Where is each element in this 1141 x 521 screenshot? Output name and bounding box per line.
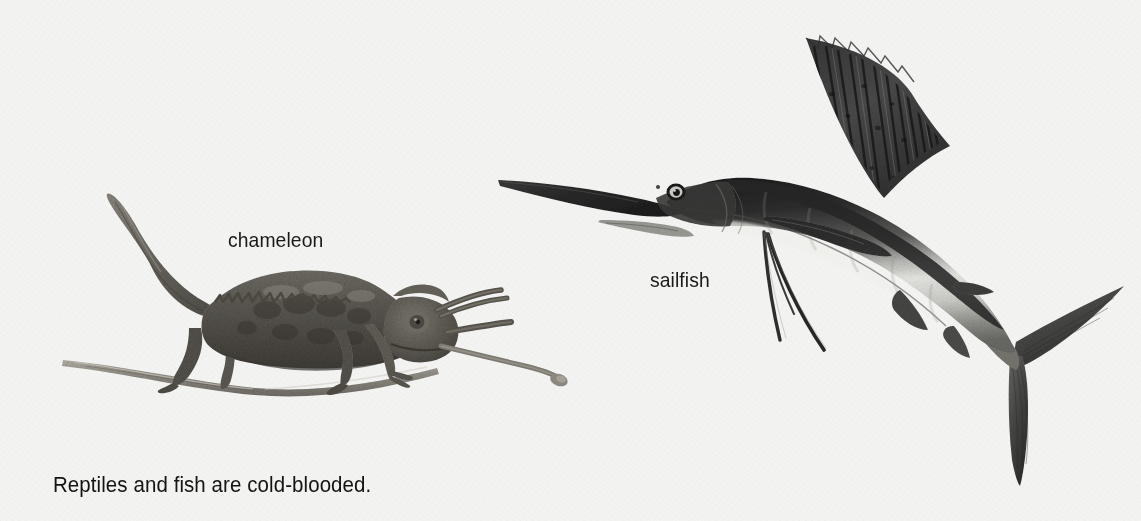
illustration-page: chameleon sailfish Reptiles and fish are… (0, 0, 1141, 521)
chameleon-tail (107, 193, 231, 320)
page-caption: Reptiles and fish are cold-blooded. (53, 472, 371, 498)
sailfish-tail (976, 286, 1124, 486)
label-sailfish: sailfish (650, 268, 710, 292)
sailfish-illustration (480, 20, 1140, 500)
branch (62, 360, 439, 396)
sailfish-dorsal-fin (802, 36, 952, 212)
sailfish-head (498, 180, 743, 237)
label-chameleon: chameleon (228, 228, 323, 252)
